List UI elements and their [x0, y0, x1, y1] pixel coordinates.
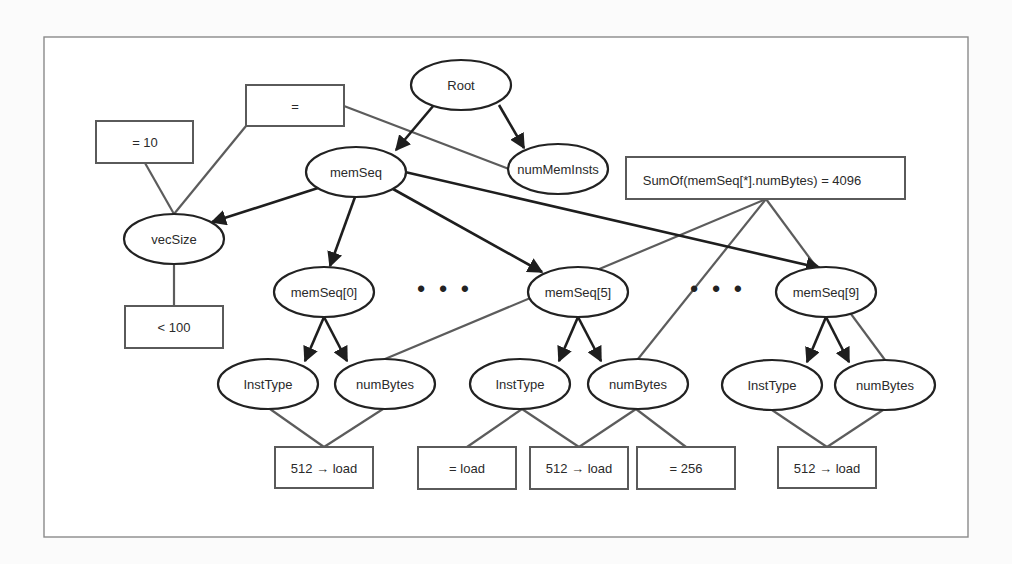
node-memseq9-label: memSeq[9] — [793, 285, 859, 300]
node-nummeminsts: numMemInsts — [508, 144, 608, 194]
node-memseq0-label: memSeq[0] — [291, 285, 357, 300]
constraint-lt100-label: < 100 — [158, 320, 191, 335]
node-vecsize-label: vecSize — [151, 232, 197, 247]
diagram-canvas: = = 10 < 100 SumOf(memSeq[*].numBytes) =… — [0, 0, 1012, 564]
constraint-impl5-label: 512 → load — [546, 461, 613, 476]
constraint-impl0: 512 → load — [275, 447, 373, 488]
constraint-eq-label: = — [291, 99, 299, 114]
node-numbytes0-label: numBytes — [356, 377, 414, 392]
constraint-impl9-label: 512 → load — [794, 461, 861, 476]
node-numbytes9-label: numBytes — [856, 378, 914, 393]
constraint-impl0-label: 512 → load — [291, 461, 358, 476]
constraint-eqload-label: = load — [449, 461, 485, 476]
node-insttype5-label: InstType — [495, 377, 544, 392]
constraint-eq10: = 10 — [96, 121, 193, 163]
ellipsis-between-0-5: • • • — [417, 276, 472, 301]
node-insttype0: InstType — [218, 359, 318, 409]
node-memseq5: memSeq[5] — [528, 267, 628, 317]
node-memseq-label: memSeq — [330, 165, 382, 180]
node-insttype0-label: InstType — [243, 377, 292, 392]
node-numbytes0: numBytes — [335, 359, 435, 409]
node-root: Root — [411, 60, 511, 110]
constraint-eqload: = load — [418, 447, 516, 489]
node-memseq0: memSeq[0] — [274, 267, 374, 317]
constraint-impl5: 512 → load — [530, 447, 628, 489]
node-numbytes9: numBytes — [835, 360, 935, 410]
constraint-eq256-label: = 256 — [670, 461, 703, 476]
constraint-eq: = — [246, 85, 344, 126]
constraint-lt100: < 100 — [125, 306, 223, 348]
constraint-eq256: = 256 — [637, 447, 735, 489]
node-numbytes5: numBytes — [588, 359, 688, 409]
ellipsis-between-5-9: • • • — [690, 276, 745, 301]
node-memseq: memSeq — [306, 147, 406, 197]
node-numbytes5-label: numBytes — [609, 377, 667, 392]
constraint-sumof-label: SumOf(memSeq[*].numBytes) = 4096 — [643, 173, 862, 188]
node-root-label: Root — [447, 78, 475, 93]
constraint-eq10-label: = 10 — [132, 135, 158, 150]
node-insttype9-label: InstType — [747, 378, 796, 393]
constraint-sumof: SumOf(memSeq[*].numBytes) = 4096 — [626, 157, 905, 199]
node-memseq9: memSeq[9] — [776, 267, 876, 317]
node-insttype9: InstType — [722, 360, 822, 410]
node-insttype5: InstType — [470, 359, 570, 409]
node-memseq5-label: memSeq[5] — [545, 285, 611, 300]
node-nummeminsts-label: numMemInsts — [517, 162, 599, 177]
constraint-impl9: 512 → load — [778, 447, 876, 488]
node-vecsize: vecSize — [124, 214, 224, 264]
